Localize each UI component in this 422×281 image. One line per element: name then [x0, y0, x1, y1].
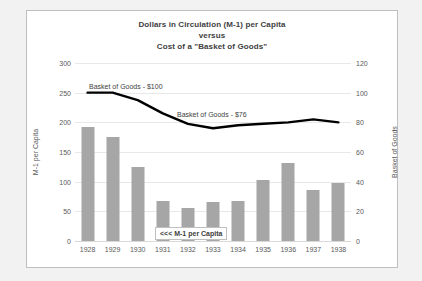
- x-axis-tick-1936: 1936: [280, 246, 296, 253]
- x-axis-tick-1933: 1933: [205, 246, 221, 253]
- y-axis-left-tick-150: 150: [59, 149, 71, 156]
- y-axis-right-tick-100: 100: [356, 89, 368, 96]
- y-axis-right-tick-120: 120: [356, 60, 368, 67]
- y-axis-right-title: Basket of Goods: [392, 126, 399, 178]
- annotation-m1-per-capita: <<< M-1 per Capita: [155, 227, 227, 240]
- x-axis-tick-1938: 1938: [331, 246, 347, 253]
- y-axis-left-tick-200: 200: [59, 119, 71, 126]
- chart-title-line-3: Cost of a "Basket of Goods": [27, 41, 397, 52]
- y-axis-right-tick-20: 20: [356, 208, 364, 215]
- y-axis-left-tick-300: 300: [59, 60, 71, 67]
- x-axis-tick-1930: 1930: [130, 246, 146, 253]
- chart-title-line-1: Dollars in Circulation (M-1) per Capita: [27, 19, 397, 30]
- chart-title: Dollars in Circulation (M-1) per Capita …: [27, 19, 397, 52]
- y-axis-left-title: M-1 per Capita: [32, 129, 39, 175]
- y-axis-left-tick-100: 100: [59, 178, 71, 185]
- x-axis-tick-1929: 1929: [105, 246, 121, 253]
- y-axis-right-tick-40: 40: [356, 178, 364, 185]
- x-axis-tick-1937: 1937: [306, 246, 322, 253]
- y-axis-left-tick-50: 50: [63, 208, 71, 215]
- chart-title-line-2: versus: [27, 30, 397, 41]
- gridline-0: [75, 241, 351, 242]
- annotation-basket-76: Basket of Goods - $76: [177, 111, 247, 118]
- x-axis-tick-1932: 1932: [180, 246, 196, 253]
- y-axis-right-tick-80: 80: [356, 119, 364, 126]
- screenshot-root: Dollars in Circulation (M-1) per Capita …: [0, 0, 422, 281]
- x-axis-tick-1931: 1931: [155, 246, 171, 253]
- y-axis-left-tick-250: 250: [59, 89, 71, 96]
- chart-container: Dollars in Circulation (M-1) per Capita …: [26, 10, 398, 268]
- x-axis-tick-1934: 1934: [230, 246, 246, 253]
- y-axis-right-tick-60: 60: [356, 149, 364, 156]
- y-axis-left-tick-0: 0: [67, 238, 71, 245]
- annotation-basket-100: Basket of Goods - $100: [89, 83, 163, 90]
- y-axis-right-tick-0: 0: [356, 238, 360, 245]
- x-axis-tick-1928: 1928: [80, 246, 96, 253]
- x-axis-tick-1935: 1935: [255, 246, 271, 253]
